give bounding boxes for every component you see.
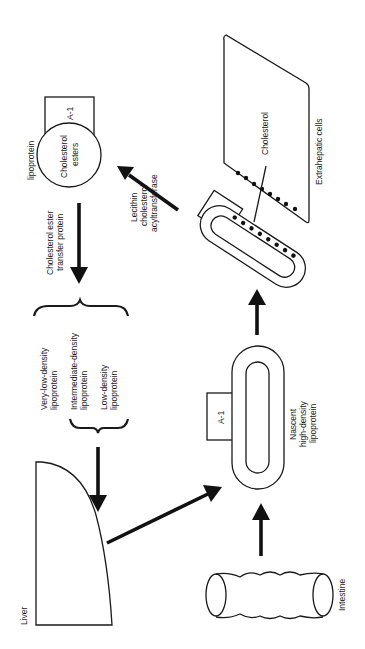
intestine-to-hdl-arrow: [252, 503, 270, 556]
liver-label: Liver: [19, 606, 29, 625]
svg-text:Nascent: Nascent: [288, 408, 298, 440]
lipoprotein-particle: A-1 Cholesterol esters lipoprotein: [26, 97, 101, 187]
ldl-label: Low-density: [99, 364, 109, 410]
svg-text:lipoprotein: lipoprotein: [109, 371, 119, 410]
top-brace: [34, 300, 128, 316]
svg-text:lipoprotein: lipoprotein: [308, 404, 318, 443]
cell-cholesterol-dots: [236, 171, 297, 211]
idl-label: Intermediate-density: [69, 332, 79, 410]
lipoprotein-group-labels: Very-low-density lipoprotein Intermediat…: [39, 332, 119, 410]
lcat-label: Lecithin cholesterol acyltransferase: [129, 174, 159, 232]
nascent-hdl-apo-label: A-1: [216, 411, 226, 425]
svg-text:Cholesterol ester: Cholesterol ester: [45, 211, 55, 275]
svg-text:lipoprotein: lipoprotein: [79, 371, 89, 410]
nascent-hdl: A-1 Nascent high-density lipoprotein: [207, 346, 318, 489]
svg-text:lipoprotein: lipoprotein: [49, 371, 59, 410]
intestine: Intestine: [206, 572, 347, 619]
nascent-to-mature-arrow: [248, 289, 266, 335]
intestine-label: Intestine: [337, 579, 347, 611]
cetp-label: Cholesterol ester transfer protein: [45, 211, 65, 275]
extrahepatic-cells-label: Extrahepatic cells: [314, 118, 324, 185]
extrahepatic-cells: Extrahepatic cells Cholesterol: [224, 35, 324, 223]
svg-text:transfer protein: transfer protein: [55, 214, 65, 271]
cetp-arrow: [70, 203, 88, 284]
lipoprotein-label: lipoprotein: [26, 141, 36, 180]
vldl-label: Very-low-density: [39, 347, 49, 410]
hdl-pathway-diagram: Extrahepatic cells Cholesterol A-1 Lecit…: [0, 0, 365, 649]
nascent-hdl-label: Nascent high-density lipoprotein: [288, 400, 318, 447]
svg-text:acyltransferase: acyltransferase: [149, 174, 159, 232]
svg-text:high-density: high-density: [298, 400, 308, 447]
svg-text:cholesterol: cholesterol: [139, 185, 149, 226]
lipoprotein-apo-label: A-1: [65, 107, 75, 121]
mature-hdl: A-1: [190, 190, 317, 294]
cholesterol-pointer-line: [254, 166, 266, 222]
svg-text:esters: esters: [70, 143, 80, 166]
cholesterol-label: Cholesterol: [260, 112, 270, 155]
bottom-brace: [70, 419, 128, 433]
svg-text:Lecithin: Lecithin: [129, 192, 139, 222]
liver-to-hdl-arrow: [107, 485, 222, 543]
svg-text:Cholesterol: Cholesterol: [59, 135, 69, 178]
